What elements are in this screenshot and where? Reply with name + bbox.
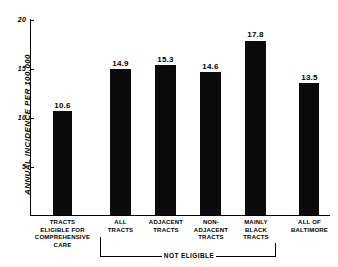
x-category-line: ALL OF bbox=[284, 219, 335, 227]
bar-all-tracts bbox=[110, 69, 131, 215]
bar-all-of-baltimore bbox=[299, 83, 319, 215]
x-category-tracts-eligible: TRACTS ELIGIBLE FOR COMPREHENSIVE CARE bbox=[25, 219, 100, 249]
x-category-line: ADJACENT bbox=[142, 219, 190, 227]
x-category-line: CARE bbox=[25, 242, 100, 250]
y-tick-5 bbox=[30, 167, 34, 168]
x-category-line: ADJACENT bbox=[187, 227, 235, 235]
bar-adjacent-tracts bbox=[155, 65, 176, 215]
x-category-mainly-black-tracts: MAINLY BLACK TRACTS bbox=[233, 219, 279, 242]
x-category-adjacent-tracts: ADJACENT TRACTS bbox=[142, 219, 190, 234]
bar-value-adjacent-tracts: 15.3 bbox=[146, 55, 185, 64]
bracket-line-right bbox=[216, 256, 276, 257]
bracket-left-tick bbox=[100, 237, 101, 257]
x-category-line: ELIGIBLE FOR bbox=[25, 227, 100, 235]
x-category-line: BALTIMORE bbox=[284, 227, 335, 235]
x-category-line: TRACTS bbox=[233, 234, 279, 242]
x-category-line: TRACTS bbox=[187, 234, 235, 242]
x-category-non-adjacent-tracts: NON- ADJACENT TRACTS bbox=[187, 219, 235, 242]
x-category-all-of-baltimore: ALL OF BALTIMORE bbox=[284, 219, 335, 234]
y-tick-label-5: 5 bbox=[6, 163, 26, 170]
y-tick-10 bbox=[30, 118, 34, 119]
bracket-right-tick bbox=[275, 243, 276, 257]
y-tick-15 bbox=[30, 69, 34, 70]
bar-value-mainly-black-tracts: 17.8 bbox=[236, 30, 275, 39]
x-category-line: ALL bbox=[98, 219, 143, 227]
bar-value-all-tracts: 14.9 bbox=[101, 59, 140, 68]
bar-non-adjacent-tracts bbox=[200, 72, 221, 215]
bracket-label-not-eligible: NOT ELIGIBLE bbox=[162, 252, 216, 259]
bar-value-all-of-baltimore: 13.5 bbox=[290, 73, 329, 82]
x-category-line: BLACK bbox=[233, 227, 279, 235]
y-tick-20 bbox=[30, 20, 34, 21]
y-tick-label-20: 20 bbox=[6, 16, 26, 23]
x-category-all-tracts: ALL TRACTS bbox=[98, 219, 143, 234]
bracket-line-left bbox=[100, 256, 162, 257]
x-category-line: MAINLY bbox=[233, 219, 279, 227]
x-category-line: TRACTS bbox=[25, 219, 100, 227]
x-category-line: COMPREHENSIVE bbox=[25, 234, 100, 242]
bar-mainly-black-tracts bbox=[245, 41, 266, 215]
y-tick-label-15: 15 bbox=[6, 65, 26, 72]
y-tick-label-10: 10 bbox=[6, 114, 26, 121]
x-category-line: TRACTS bbox=[98, 227, 143, 235]
bar-chart: ANNUAL INCIDENCE PER 100,000 20 15 10 5 … bbox=[0, 0, 338, 267]
x-category-line: NON- bbox=[187, 219, 235, 227]
bar-value-non-adjacent-tracts: 14.6 bbox=[191, 62, 230, 71]
x-axis-line bbox=[30, 215, 330, 216]
x-category-line: TRACTS bbox=[142, 227, 190, 235]
bar-value-tracts-eligible: 10.6 bbox=[43, 101, 82, 110]
bar-tracts-eligible bbox=[53, 111, 72, 215]
